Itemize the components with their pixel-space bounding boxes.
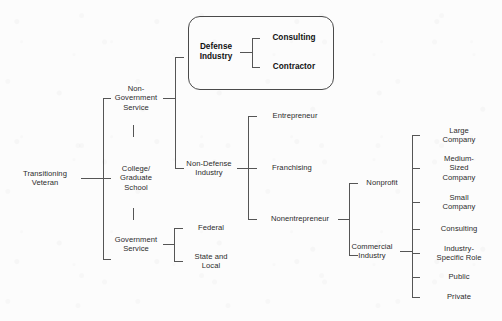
connector-tick-college-gov bbox=[133, 208, 134, 220]
connector-leaf-tick-private bbox=[412, 297, 420, 298]
node-franchising: Franchising bbox=[259, 163, 325, 172]
connector-leaf-tick-medium bbox=[412, 168, 420, 169]
node-medium-sized-company: Medium- Sized Company bbox=[426, 154, 492, 182]
connector-nongov-bracket-spine bbox=[175, 57, 176, 168]
connector-nondefense-bracket-top bbox=[248, 116, 257, 117]
node-small-company: Small Company bbox=[426, 193, 492, 212]
node-state-and-local: State and Local bbox=[184, 252, 238, 271]
node-consulting-defense: Consulting bbox=[261, 33, 327, 43]
node-consulting-commercial: Consulting bbox=[426, 224, 492, 233]
node-defense-industry: Defense Industry bbox=[188, 42, 244, 62]
node-contractor: Contractor bbox=[261, 62, 327, 72]
connector-leaf-tick-small bbox=[412, 202, 420, 203]
connector-gov-bracket-bottom bbox=[174, 261, 183, 262]
connector-leaf-tick-large bbox=[412, 135, 420, 136]
connector-gov-bracket-spine bbox=[174, 228, 175, 261]
node-industry-specific-role: Industry- Specific Role bbox=[424, 244, 494, 263]
connector-nondefense-bracket-bottom bbox=[248, 219, 257, 220]
node-non-government-service: Non- Government Service bbox=[107, 84, 165, 112]
node-nonentrepreneur: Nonentrepreneur bbox=[259, 214, 341, 223]
connector-defense-bracket-top bbox=[252, 38, 260, 39]
connector-root-stem bbox=[81, 178, 103, 179]
node-federal: Federal bbox=[185, 223, 237, 232]
connector-level1-cap-bottom bbox=[103, 259, 111, 260]
node-government-service: Government Service bbox=[105, 235, 167, 254]
connector-nongov-bracket-top bbox=[175, 57, 184, 58]
connector-leaf-tick-industry-role bbox=[412, 253, 420, 254]
connector-defense-bracket-bottom bbox=[252, 67, 260, 68]
node-public: Public bbox=[426, 272, 492, 281]
node-college-graduate-school: College/ Graduate School bbox=[107, 164, 165, 192]
node-nonprofit: Nonprofit bbox=[355, 178, 409, 187]
node-transitioning-veteran: Transitioning Veteran bbox=[6, 169, 84, 188]
connector-gov-bracket-top bbox=[174, 228, 183, 229]
connector-leaf-tick-consulting bbox=[412, 229, 420, 230]
node-commercial-industry: Commercial Industry bbox=[342, 242, 402, 261]
connector-commercial-bracket-spine bbox=[412, 135, 413, 297]
connector-nondefense-bracket-mid bbox=[248, 168, 257, 169]
tree-diagram: Transitioning Veteran Non- Government Se… bbox=[0, 0, 502, 321]
connector-defense-bracket-spine bbox=[252, 38, 253, 67]
connector-leaf-tick-public bbox=[412, 277, 420, 278]
node-private: Private bbox=[426, 292, 492, 301]
node-large-company: Large Company bbox=[426, 126, 492, 145]
node-entrepreneur: Entrepreneur bbox=[259, 111, 331, 120]
connector-tick-nongov-college bbox=[133, 125, 134, 137]
node-non-defense-industry: Non-Defense Industry bbox=[178, 159, 240, 178]
